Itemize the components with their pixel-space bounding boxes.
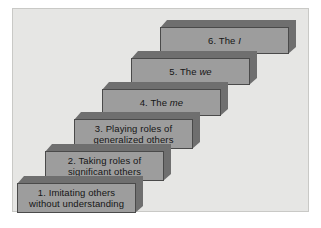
step-1-label: 1. Imitating others without understandin… xyxy=(25,187,128,210)
step-4-label: 4. The me xyxy=(136,97,188,109)
step-6-label: 6. The I xyxy=(204,35,245,47)
staircase-step-1[interactable]: 1. Imitating others without understandin… xyxy=(17,176,143,213)
step-5-label: 5. The we xyxy=(165,66,215,78)
step-5-face[interactable]: 5. The we xyxy=(131,58,250,85)
step-2-label: 2. Taking roles of significant others xyxy=(64,155,145,178)
step-6-face[interactable]: 6. The I xyxy=(160,27,289,54)
diagram-frame: 1. Imitating others without understandin… xyxy=(12,8,309,212)
step-1-face[interactable]: 1. Imitating others without understandin… xyxy=(17,183,136,213)
staircase-step-4[interactable]: 4. The me xyxy=(102,82,228,116)
diagram-root: 1. Imitating others without understandin… xyxy=(0,0,321,228)
staircase-step-6[interactable]: 6. The I xyxy=(160,20,296,54)
step-4-emphasis: me xyxy=(170,97,183,108)
step-3-label: 3. Playing roles of generalized others xyxy=(90,123,178,146)
staircase-step-5[interactable]: 5. The we xyxy=(131,51,257,85)
staircase-stage: 1. Imitating others without understandin… xyxy=(13,9,308,211)
step-6-emphasis: I xyxy=(238,35,241,46)
step-5-emphasis: we xyxy=(199,66,211,77)
